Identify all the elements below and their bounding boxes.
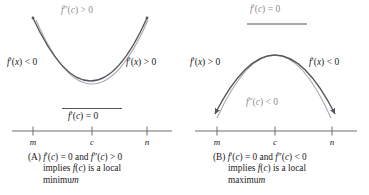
label-tangent-a: f′(c) = 0 [68,112,98,122]
caption-a-line3: minimum [28,175,156,186]
caption-b: (B) f′(c) = 0 and f″(c) < 0 implies f(c)… [185,152,369,186]
caption-b-line3: maximum [213,175,341,186]
axis-label-m-a: m [30,137,37,147]
axis-label-n-b: n [330,137,335,147]
curve-a-shadow [36,20,148,84]
label-left-slope-b: f′(x) > 0 [190,58,220,68]
axis-label-c-a: c [90,137,94,147]
caption-a: (A) f′(c) = 0 and f″(c) > 0 implies f(c)… [0,152,184,186]
label-right-slope-b: f′(x) < 0 [309,58,339,68]
axis-label-m-b: m [214,137,221,147]
curve-a-main [33,18,147,81]
caption-b-line1: (B) f′(c) = 0 and f″(c) < 0 [213,152,307,162]
axis-label-c-b: c [273,137,277,147]
caption-b-line2: implies f(c) is a local [213,163,341,174]
second-derivative-test-figure: f″(c) > 0 f′(x) < 0 f′(x) > 0 f′(c) = 0 … [0,0,369,195]
label-tangent-b: f′(c) = 0 [250,5,280,15]
curve-a-endpoint-left [32,17,35,20]
label-left-slope-a: f′(x) < 0 [7,58,37,68]
label-right-slope-a: f′(x) > 0 [126,58,156,68]
panel-b-plot [185,0,369,150]
axis-label-n-a: n [145,137,150,147]
label-concavity-a: f″(c) > 0 [61,6,93,16]
caption-a-line1: (A) f′(c) = 0 and f″(c) > 0 [28,152,122,162]
caption-a-line2: implies f(c) is a local [28,163,156,174]
label-concavity-b: f″(c) < 0 [246,98,278,108]
panel-a-local-minimum: f″(c) > 0 f′(x) < 0 f′(x) > 0 f′(c) = 0 … [0,0,184,195]
panel-a-plot [0,0,184,150]
curve-a-endpoint-right [146,17,149,20]
panel-b-local-maximum: f′(c) = 0 f′(x) > 0 f′(x) < 0 f″(c) < 0 … [185,0,369,195]
